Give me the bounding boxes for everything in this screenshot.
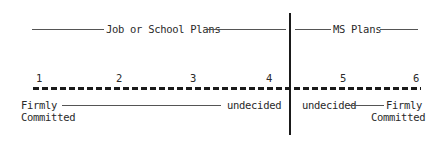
header-right-rule-2 xyxy=(380,29,418,30)
anchor-left-firmly: Firmly xyxy=(21,99,57,111)
anchor-right-committed: Committed xyxy=(371,111,425,123)
anchor-right-firmly: Firmly xyxy=(386,99,422,111)
header-right-rule-1 xyxy=(295,29,331,30)
scale-point-6: 6 xyxy=(413,72,419,84)
scale-point-5: 5 xyxy=(340,72,346,84)
scale-point-1: 1 xyxy=(36,72,42,84)
section-title-ms-plans: MS Plans xyxy=(333,23,381,35)
right-range-rule xyxy=(350,105,384,106)
anchor-left-undecided: undecided xyxy=(227,99,281,111)
scale-point-2: 2 xyxy=(116,72,122,84)
scale-point-3: 3 xyxy=(190,72,196,84)
header-left-rule-2 xyxy=(207,29,286,30)
scale-point-4: 4 xyxy=(266,72,272,84)
scale-line xyxy=(33,87,421,90)
section-title-job-school: Job or School Plans xyxy=(106,23,220,35)
header-left-rule-1 xyxy=(32,29,104,30)
section-divider xyxy=(289,13,291,135)
left-range-rule xyxy=(62,105,221,106)
anchor-left-committed: Committed xyxy=(21,111,75,123)
anchor-right-undecided: undecided xyxy=(302,99,356,111)
